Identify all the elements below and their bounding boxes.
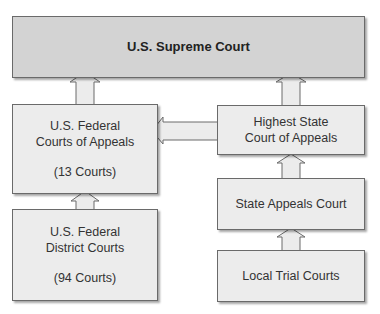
node-count: (13 Courts) — [54, 164, 117, 180]
node-highest-state-court: Highest State Court of Appeals — [217, 105, 365, 155]
node-federal-courts-of-appeals: U.S. Federal Courts of Appeals (13 Court… — [12, 104, 158, 194]
node-local-trial-courts: Local Trial Courts — [217, 250, 365, 302]
node-label-line1: U.S. Federal — [50, 224, 120, 240]
arrow-up-icon — [277, 228, 305, 251]
node-label-line1: U.S. Federal — [50, 118, 120, 134]
node-label-line2: Court of Appeals — [245, 130, 337, 146]
node-us-supreme-court: U.S. Supreme Court — [12, 16, 365, 78]
node-label-line1: Highest State — [253, 114, 328, 130]
arrow-up-icon — [277, 154, 305, 179]
node-label-line2: District Courts — [46, 240, 124, 256]
node-label: U.S. Supreme Court — [127, 39, 250, 55]
node-label: State Appeals Court — [235, 196, 346, 212]
arrow-left-icon — [152, 117, 218, 144]
node-count: (94 Courts) — [54, 270, 117, 286]
node-label: Local Trial Courts — [242, 268, 339, 284]
node-label-line2: Courts of Appeals — [36, 134, 135, 150]
node-federal-district-courts: U.S. Federal District Courts (94 Courts) — [12, 209, 158, 301]
node-state-appeals-court: State Appeals Court — [217, 178, 365, 230]
